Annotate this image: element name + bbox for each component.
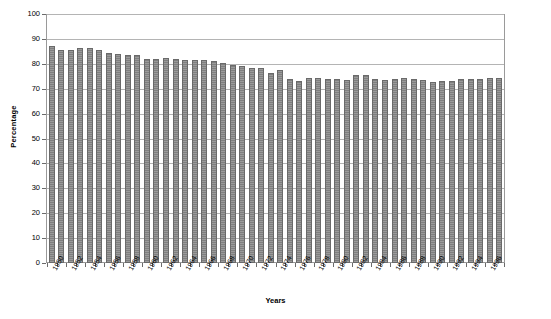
y-axis-tick-label: 60 <box>14 110 40 118</box>
y-axis-tick-label: 100 <box>14 10 40 18</box>
y-axis-tick-label: 10 <box>14 234 40 242</box>
bar <box>334 79 340 263</box>
bar <box>211 61 217 263</box>
y-axis-tick-label: 70 <box>14 85 40 93</box>
bar <box>315 78 321 264</box>
y-axis-tick-label: 40 <box>14 159 40 167</box>
bar <box>230 65 236 263</box>
bar <box>192 60 198 263</box>
bar <box>487 78 493 264</box>
bar <box>68 50 74 263</box>
bar <box>458 79 464 263</box>
bar <box>153 59 159 263</box>
bar <box>220 63 226 263</box>
bar <box>96 50 102 263</box>
bar <box>106 53 112 263</box>
bar <box>277 70 283 263</box>
bar <box>430 82 436 263</box>
y-axis-tick-label: 50 <box>14 135 40 143</box>
bar <box>144 59 150 263</box>
bar <box>411 79 417 263</box>
bar <box>173 59 179 263</box>
bar <box>134 55 140 263</box>
bar <box>182 60 188 263</box>
bar <box>163 58 169 263</box>
bar <box>77 48 83 263</box>
y-axis-tick-label: 80 <box>14 60 40 68</box>
bar <box>477 79 483 263</box>
bar <box>468 79 474 263</box>
bar <box>344 80 350 263</box>
bar <box>306 78 312 264</box>
bar <box>49 46 55 263</box>
bar <box>353 75 359 263</box>
bar-chart: Percentage 0102030405060708090100 195019… <box>0 0 551 319</box>
bar <box>125 55 131 263</box>
bar <box>372 79 378 263</box>
bar <box>115 54 121 263</box>
bar <box>382 80 388 263</box>
bar <box>392 79 398 263</box>
bar <box>420 80 426 263</box>
y-axis-tick-label: 20 <box>14 209 40 217</box>
bar <box>268 73 274 263</box>
y-axis-tick-label: 90 <box>14 35 40 43</box>
bar <box>287 79 293 263</box>
y-axis-tick <box>42 263 46 264</box>
bar <box>249 68 255 263</box>
bar <box>449 81 455 263</box>
bar <box>296 81 302 263</box>
bar <box>58 50 64 263</box>
bar <box>401 78 407 264</box>
bar <box>258 68 264 263</box>
bar <box>325 79 331 263</box>
x-axis-title: Years <box>0 296 551 305</box>
bar <box>363 75 369 263</box>
bar <box>201 60 207 263</box>
bar-series <box>47 14 504 263</box>
bar <box>239 66 245 263</box>
bar <box>87 48 93 263</box>
bar <box>496 78 502 264</box>
y-axis-tick-label: 30 <box>14 184 40 192</box>
bar <box>439 81 445 263</box>
